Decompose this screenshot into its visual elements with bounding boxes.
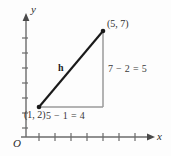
x-axis-arrow-icon bbox=[147, 134, 155, 141]
x-axis-label: x bbox=[157, 131, 162, 142]
point-label-lower: (1, 2) bbox=[24, 110, 46, 120]
distance-formula-diagram: y x O (5, 7) (1, 2) h 7 − 2 = 5 5 − 1 = … bbox=[0, 0, 171, 156]
origin-label: O bbox=[13, 138, 21, 149]
horizontal-leg-label: 5 − 1 = 4 bbox=[46, 111, 85, 121]
y-axis-arrow-icon bbox=[23, 13, 30, 21]
vertex-dot-upper bbox=[101, 29, 106, 34]
hypotenuse-label: h bbox=[58, 63, 64, 73]
vertical-leg-label: 7 − 2 = 5 bbox=[108, 64, 147, 74]
point-label-upper: (5, 7) bbox=[107, 19, 129, 29]
hypotenuse-segment bbox=[39, 31, 103, 107]
y-axis-label: y bbox=[31, 4, 36, 15]
diagram-canvas bbox=[0, 0, 171, 156]
x-axis-group bbox=[21, 133, 155, 141]
